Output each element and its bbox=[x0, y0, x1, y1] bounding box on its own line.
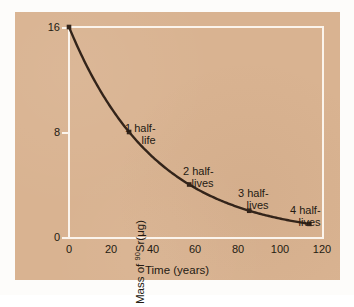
annotation-3-line2: lives bbox=[238, 200, 269, 212]
annotation-4-line2: lives bbox=[290, 217, 321, 229]
annotation-2-half-lives: 2 half- lives bbox=[183, 166, 214, 189]
decay-curve-path bbox=[69, 27, 309, 224]
annotation-1-line2: life bbox=[125, 135, 156, 147]
annotation-3-line1: 3 half- bbox=[238, 187, 269, 199]
data-point-marker-0 bbox=[67, 25, 72, 30]
annotation-2-line2: lives bbox=[183, 178, 214, 190]
annotation-4-half-lives: 4 half- lives bbox=[290, 205, 321, 228]
data-point-markers bbox=[67, 25, 312, 226]
annotation-4-line1: 4 half- bbox=[290, 204, 321, 216]
annotation-1-half-life: 1 half- life bbox=[125, 123, 156, 146]
annotation-3-half-lives: 3 half- lives bbox=[238, 188, 269, 211]
annotation-1-line1: 1 half- bbox=[125, 122, 156, 134]
annotation-2-line1: 2 half- bbox=[183, 165, 214, 177]
